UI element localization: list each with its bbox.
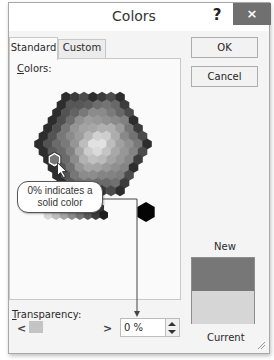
new-color-label: New [214,241,236,252]
new-color-swatch [192,258,254,291]
tab-standard[interactable]: Standard [9,37,58,60]
current-color-label: Current [207,332,245,343]
ok-button[interactable]: OK [191,37,258,58]
cancel-button[interactable]: Cancel [191,66,258,87]
spin-down-icon[interactable] [168,330,176,334]
transparency-input[interactable]: 0 % [120,318,166,337]
dialog-title: Colors [9,8,269,24]
help-button[interactable]: ? [207,6,227,24]
transparency-slider-thumb[interactable] [29,321,43,333]
colors-label: Colors: [17,63,52,74]
resize-grip-icon[interactable] [256,340,266,350]
transparency-label: Transparency: [12,309,81,320]
color-preview [191,257,255,324]
transparency-spinner[interactable] [166,318,180,337]
title-bar: Colors ? × [9,3,269,31]
callout-annotation: 0% indicates a solid color [17,181,103,213]
slider-right-arrow-icon[interactable]: > [103,322,112,335]
current-color-swatch [192,291,254,324]
tab-custom[interactable]: Custom [58,39,106,58]
slider-left-arrow-icon[interactable]: < [17,322,26,335]
spin-up-icon[interactable] [168,322,176,326]
standard-tab-panel: Colors: [9,58,181,300]
close-button[interactable]: × [233,3,271,25]
